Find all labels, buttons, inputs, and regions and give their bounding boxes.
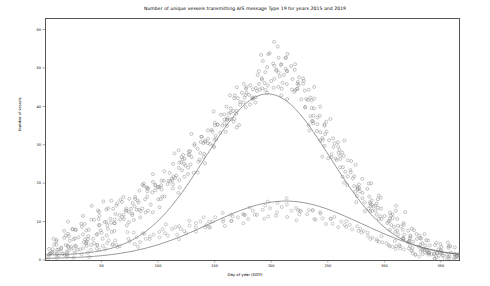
series-2019 [47,40,460,260]
y-tick-label: 30 [37,143,41,147]
chart-page: Number of unique vessels transmitting AI… [0,0,490,286]
x-tick-label: 350 [438,264,445,268]
x-tick-label: 200 [268,264,275,268]
y-tick-label: 60 [37,28,41,32]
x-tick-label: 50 [99,264,103,268]
x-tick-label: 150 [211,264,218,268]
y-tick-label: 40 [37,105,41,109]
x-tick-label: 300 [381,264,388,268]
y-axis-label: Number of vessels [18,84,22,144]
chart-title: Number of unique vessels transmitting AI… [0,6,490,11]
y-tick-label: 10 [37,220,41,224]
y-tick-label: 0 [39,258,41,262]
x-axis-label: Day of year (DOY) [0,272,490,277]
y-tick-label: 50 [37,66,41,70]
x-tick-label: 250 [324,264,331,268]
trend-line-2019 [46,94,460,255]
scatter-canvas [46,19,460,261]
plot-area [45,18,460,261]
y-tick-label: 20 [37,181,41,185]
x-tick-label: 100 [155,264,162,268]
